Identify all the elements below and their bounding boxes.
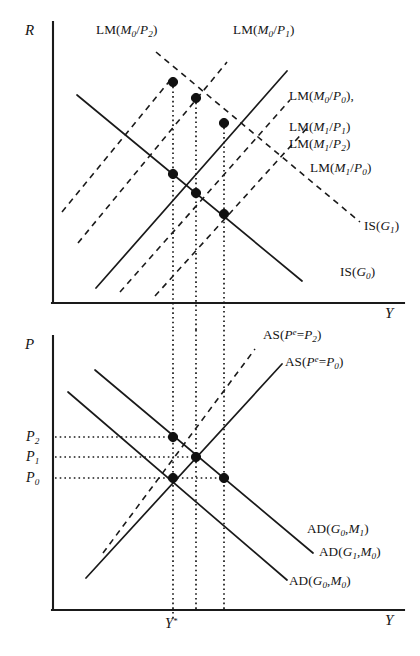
label-text: IS(G1) (364, 218, 399, 233)
label-text: P2 (26, 428, 39, 444)
curve-lm-m1-p1 (120, 100, 290, 292)
figure-root: R Y LM(M0/P2) LM(M0/P1) LM(M0/P0), LM(M1… (0, 0, 420, 656)
curve-ad-g0-m1-g1-m0 (95, 370, 313, 553)
label-text-line1: LM(M0/P0), (289, 88, 354, 104)
curve-label-ad-g0-m1: AD(G0,M1) (307, 521, 369, 537)
label-text: AS(Pe=P0) (285, 354, 344, 369)
y-tick-label-p0: P0 (26, 469, 39, 486)
equilibrium-dot (168, 432, 177, 441)
equilibrium-dot (191, 188, 200, 197)
curve-label-is-g0: IS(G0) (340, 264, 375, 280)
label-text: LM(M0/P2) (96, 22, 157, 37)
curve-lm-m0-p2 (62, 78, 172, 212)
curve-label-ad-g1-m0: AD(G1,M0) (319, 544, 381, 560)
equilibrium-dot (191, 452, 200, 461)
label-text: LM(M0/P1) (233, 22, 294, 37)
equilibrium-dot (219, 118, 228, 127)
curve-is-g0 (77, 95, 302, 281)
label-text: AS(Pe=P2) (263, 327, 322, 342)
label-text: AD(G0,M0) (289, 573, 351, 588)
y-tick-label-p2: P2 (26, 428, 39, 445)
top-panel-y-axis-label: R (25, 22, 34, 40)
curve-label-as-pe-p0: AS(Pe=P0) (285, 354, 344, 370)
label-text: P1 (26, 448, 39, 464)
curve-label-lm-m1-p0: LM(M1/P0) (310, 160, 371, 176)
label-text: AD(G0,M1) (307, 521, 369, 536)
bottom-panel-y-axis-label: P (25, 336, 34, 354)
bottom-panel-x-axis-label: Y (385, 612, 393, 630)
label-text-line2: LM(M1/P2) (289, 136, 354, 152)
equilibrium-dot (191, 93, 200, 102)
label-text: P0 (26, 469, 39, 485)
curve-lm-m1-p0 (155, 128, 307, 296)
curve-label-lm-m0-p2: LM(M0/P2) (96, 22, 157, 38)
curve-as-pe-p0 (86, 364, 282, 578)
equilibrium-dot (219, 473, 228, 482)
label-text: LM(M1/P1) (289, 119, 350, 134)
equilibrium-dot (168, 169, 177, 178)
curve-label-is-g1: IS(G1) (364, 218, 399, 234)
curve-label-ad-g0-m0: AD(G0,M0) (289, 573, 351, 589)
label-text: Y* (165, 615, 177, 631)
curve-ad-g0-m0 (68, 392, 287, 580)
label-text: AD(G1,M0) (319, 544, 381, 559)
curve-lm-m0-p0-m1-p2 (96, 71, 287, 288)
y-tick-label-p1: P1 (26, 448, 39, 465)
x-tick-label-ystar: Y* (165, 615, 177, 632)
curve-label-lm-m0-p1: LM(M0/P1) (233, 22, 294, 38)
equilibrium-dot (219, 209, 228, 218)
top-panel-x-axis-label: Y (385, 305, 393, 323)
bottom-panel-group (52, 330, 404, 618)
curve-label-as-pe-p2: AS(Pe=P2) (263, 327, 322, 343)
curve-label-lm-m1-p1: LM(M1/P1) (289, 119, 350, 135)
equilibrium-dot (168, 77, 177, 86)
curve-lm-m0-p1 (78, 62, 227, 243)
equilibrium-dot (168, 473, 177, 482)
label-text: LM(M1/P0) (310, 160, 371, 175)
label-text: IS(G0) (340, 264, 375, 279)
curve-as-pe-p2 (103, 349, 255, 553)
